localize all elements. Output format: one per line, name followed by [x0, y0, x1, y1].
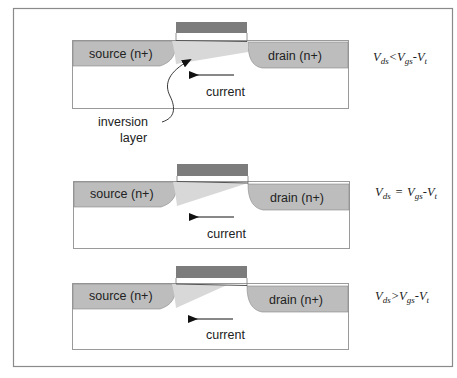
drain-label: drain (n+): [268, 49, 322, 63]
gate: [176, 22, 247, 33]
current-label: current: [207, 227, 246, 241]
source-label: source (n+): [90, 187, 154, 201]
inversion-label-line2: layer: [120, 131, 147, 145]
drain-label: drain (n+): [270, 191, 324, 205]
source-label: source (n+): [89, 289, 153, 303]
source-label: source (n+): [89, 47, 153, 61]
gate: [176, 266, 247, 278]
current-label: current: [206, 85, 245, 99]
mosfet-channel-diagram: source (n+) drain (n+) current inversion…: [0, 0, 457, 378]
inversion-label-line1: inversion: [98, 115, 148, 129]
drain-label: drain (n+): [269, 293, 323, 307]
current-label: current: [206, 328, 245, 342]
gate: [177, 164, 248, 176]
